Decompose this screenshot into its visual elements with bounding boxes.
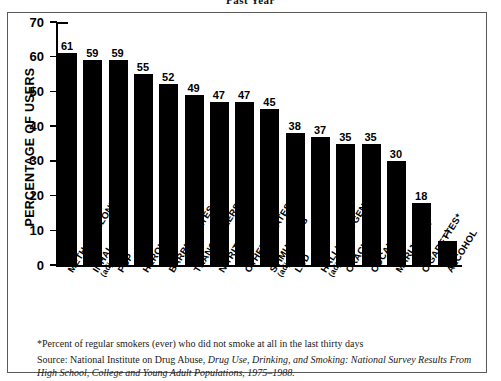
y-axis-tick-label: 50 [0,85,44,98]
y-axis-tick [50,56,57,58]
bar-value-label: 38 [289,121,301,132]
y-axis-tick [50,125,57,127]
y-axis-tick-label: 30 [0,154,44,167]
bar-value-label: 35 [339,132,351,143]
bar-value-label: 47 [238,90,250,101]
y-axis-top-cap [56,22,68,24]
bar-value-label: 37 [314,125,326,136]
y-axis-tick [50,230,57,232]
source-note: Source: National Institute on Drug Abuse… [37,353,473,379]
bar [311,137,330,265]
source-prefix: Source: National Institute on Drug Abuse… [37,354,208,365]
y-axis-tick [50,264,57,266]
bar-value-label: 55 [137,62,149,73]
y-axis-title: PERCENTAGE OF USERS [23,47,37,247]
bar-value-label: 47 [213,90,225,101]
y-axis-tick [50,91,57,93]
y-axis-tick-label: 70 [0,16,44,29]
y-axis-tick-label: 20 [0,189,44,202]
bar-value-label: 59 [86,48,98,59]
y-axis-tick [50,21,57,23]
source-italic-line1: Drug Use, Drinking, and Smoking: Nationa… [208,354,447,365]
chart-page: Past Year PERCENTAGE OF USERS 0102030405… [0,0,501,381]
bar-value-label: 45 [263,97,275,108]
bar-value-label: 35 [365,132,377,143]
bar-value-label: 30 [390,149,402,160]
y-axis-tick [50,195,57,197]
y-axis-tick [50,160,57,162]
bar [58,53,77,265]
y-axis-tick-label: 40 [0,120,44,133]
bar-value-label: 61 [61,41,73,52]
bar [134,74,153,265]
bar-value-label: 49 [187,83,199,94]
bar-value-label: 52 [162,72,174,83]
footnote: *Percent of regular smokers (ever) who d… [37,338,467,351]
y-axis-tick-label: 10 [0,224,44,237]
plot-area: PERCENTAGE OF USERS 010203040506070 6159… [0,0,501,381]
y-axis-tick-label: 60 [0,50,44,63]
bar-value-label: 18 [415,191,427,202]
bar-value-label: 59 [112,48,124,59]
y-axis-tick-label: 0 [0,259,44,272]
